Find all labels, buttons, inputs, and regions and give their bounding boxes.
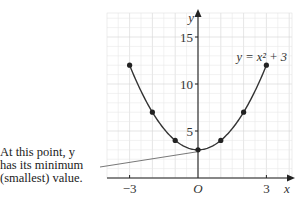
svg-text:3: 3 (263, 181, 270, 196)
svg-text:−3: −3 (123, 181, 137, 196)
svg-text:15: 15 (180, 30, 193, 45)
grid (107, 13, 292, 178)
annotation-line-3: (smallest) value. (0, 172, 83, 185)
svg-text:O: O (193, 181, 203, 196)
svg-text:y = x² + 3: y = x² + 3 (235, 50, 287, 64)
svg-text:x: x (283, 181, 290, 196)
minimum-annotation: At this point, y has its minimum (smalle… (0, 146, 83, 185)
svg-text:y: y (186, 10, 194, 25)
axes (107, 9, 295, 182)
svg-text:10: 10 (180, 77, 193, 92)
svg-text:5: 5 (187, 124, 194, 139)
